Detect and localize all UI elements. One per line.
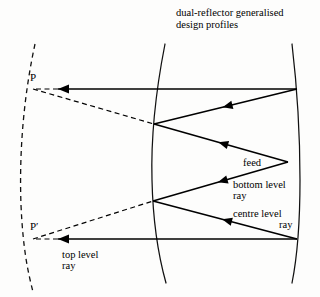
figure-title-line-2: design profiles [176, 19, 238, 30]
point-labels: P P′ [30, 71, 39, 232]
label-top-level-ray-line-1: top level [62, 249, 99, 260]
ray-segment [33, 201, 153, 239]
ray-arrowhead [223, 101, 234, 109]
ray-arrowhead [58, 234, 69, 243]
ray-arrowhead [218, 141, 229, 149]
dual-reflector-diagram: dual-reflector generalised design profil… [0, 0, 320, 297]
ray-p-prime-to-sub-reflector [33, 201, 153, 239]
figure-title: dual-reflector generalised design profil… [176, 7, 284, 30]
label-bottom-level-ray-line-1: bottom level [233, 179, 286, 190]
point-label-p: P [30, 71, 36, 83]
figure-root: dual-reflector generalised design profil… [0, 0, 320, 297]
label-feed: feed [243, 157, 262, 168]
label-centre-level-ray-line-1: centre level [233, 208, 282, 219]
main-reflector-profile [292, 44, 300, 283]
ray-segment [33, 89, 154, 124]
ray-arrowhead [58, 84, 69, 93]
sub-reflector-profile [152, 44, 166, 283]
point-label-p-prime: P′ [30, 220, 39, 232]
label-top-level-ray-line-2: ray [62, 260, 76, 271]
ray-p-to-sub-reflector [33, 89, 154, 124]
ray-arrowheads [58, 84, 233, 243]
figure-title-line-1: dual-reflector generalised [176, 7, 284, 18]
ray-arrowhead [218, 175, 229, 183]
label-centre-level-ray-line-2: ray [279, 219, 293, 230]
label-bottom-level-ray-line-2: ray [233, 190, 247, 201]
ray-annotations: feed bottom level ray centre level ray t… [62, 157, 293, 271]
